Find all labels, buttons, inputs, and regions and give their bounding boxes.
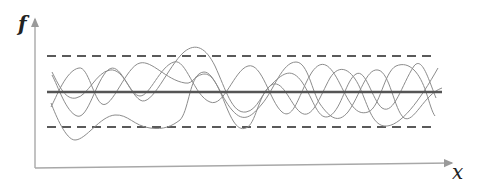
curve-1	[52, 47, 436, 117]
y-axis-label: f	[18, 14, 27, 34]
diagram-canvas	[0, 0, 479, 184]
function-band-diagram: f x	[0, 0, 479, 184]
x-axis-label: x	[452, 162, 463, 182]
curve-3	[51, 68, 438, 140]
x-axis	[35, 163, 452, 168]
